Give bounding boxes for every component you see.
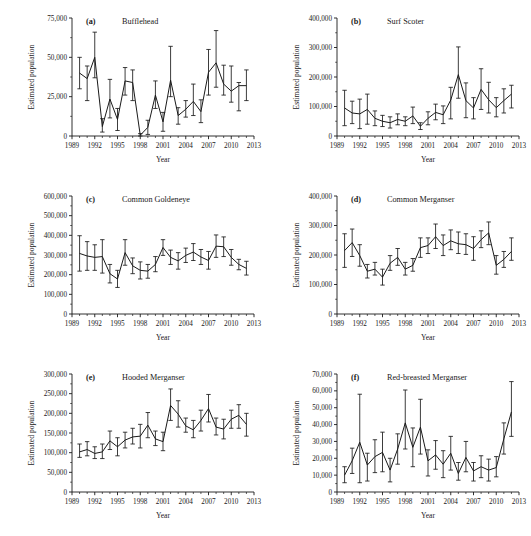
y-tick-label: 300,000 <box>309 44 333 52</box>
y-tick-label: 400,000 <box>44 232 68 240</box>
y-tick-label: 60,000 <box>312 387 332 395</box>
x-axis-title: Year <box>156 333 170 342</box>
y-tick-label: 0 <box>63 489 67 497</box>
y-axis-title: Estimated population <box>292 222 301 287</box>
y-tick-label: 600,000 <box>44 193 68 201</box>
chart-svg-c: 0100,000200,000300,000400,000500,000600,… <box>0 178 265 356</box>
chart-panel-b: 0100,000200,000300,000400,00019891992199… <box>265 0 531 178</box>
x-tick-label: 1995 <box>110 142 125 150</box>
x-tick-label: 2004 <box>444 498 459 506</box>
x-tick-label: 1998 <box>133 498 148 506</box>
y-tick-label: 50,000 <box>47 54 67 62</box>
x-tick-label: 1995 <box>375 498 390 506</box>
x-tick-label: 2007 <box>201 142 216 150</box>
x-tick-label: 2013 <box>247 320 262 328</box>
y-tick-label: 300,000 <box>44 371 68 379</box>
x-tick-label: 1995 <box>110 498 125 506</box>
panel-letter: (e) <box>86 373 95 382</box>
chart-panel-a: 025,00050,00075,000198919921995199820012… <box>0 0 265 178</box>
x-tick-label: 2001 <box>421 320 436 328</box>
x-tick-label: 2007 <box>466 142 481 150</box>
x-tick-label: 1998 <box>398 498 413 506</box>
x-tick-label: 2004 <box>179 320 194 328</box>
x-tick-label: 2007 <box>466 498 481 506</box>
x-tick-label: 2004 <box>444 320 459 328</box>
y-tick-label: 200,000 <box>44 271 68 279</box>
x-tick-label: 2007 <box>201 498 216 506</box>
chart-svg-e: 050,000100,000150,000200,000250,000300,0… <box>0 356 265 536</box>
error-bars <box>342 382 513 483</box>
x-tick-label: 2010 <box>224 320 239 328</box>
error-bars <box>342 47 513 130</box>
x-tick-label: 1992 <box>353 320 368 328</box>
y-tick-label: 500,000 <box>44 212 68 220</box>
x-tick-label: 2007 <box>201 320 216 328</box>
x-tick-label: 1995 <box>110 320 125 328</box>
x-tick-label: 1989 <box>330 142 345 150</box>
chart-svg-f: 010,00020,00030,00040,00050,00060,00070,… <box>265 356 530 536</box>
x-tick-label: 2001 <box>156 498 171 506</box>
x-axis-title: Year <box>156 155 170 164</box>
x-tick-label: 1995 <box>375 320 390 328</box>
y-tick-label: 300,000 <box>44 252 68 260</box>
y-tick-label: 75,000 <box>47 15 67 23</box>
y-axis-title: Estimated population <box>27 44 36 109</box>
x-tick-label: 1989 <box>330 498 345 506</box>
x-tick-label: 2004 <box>179 142 194 150</box>
panel-species-title: Surf Scoter <box>387 17 424 26</box>
panel-letter: (d) <box>351 195 361 204</box>
x-tick-label: 1992 <box>353 498 368 506</box>
x-tick-label: 2001 <box>156 142 171 150</box>
x-tick-label: 2010 <box>224 498 239 506</box>
y-tick-label: 100,000 <box>44 291 68 299</box>
y-tick-label: 150,000 <box>44 430 68 438</box>
y-tick-label: 30,000 <box>312 438 332 446</box>
y-tick-label: 0 <box>328 311 332 319</box>
chart-svg-a: 025,00050,00075,000198919921995199820012… <box>0 0 265 178</box>
y-axis-title: Estimated population <box>292 400 301 465</box>
chart-panel-d: 0100,000200,000300,000400,00019891992199… <box>265 178 531 356</box>
x-tick-label: 2004 <box>444 142 459 150</box>
x-tick-label: 2013 <box>512 142 527 150</box>
y-axis-title: Estimated population <box>27 400 36 465</box>
y-tick-label: 250,000 <box>44 390 68 398</box>
x-tick-label: 2013 <box>512 498 527 506</box>
chart-panel-f: 010,00020,00030,00040,00050,00060,00070,… <box>265 356 531 536</box>
x-tick-label: 2010 <box>489 142 504 150</box>
y-tick-label: 400,000 <box>309 15 333 23</box>
y-tick-label: 200,000 <box>309 74 333 82</box>
x-tick-label: 1989 <box>330 320 345 328</box>
panel-species-title: Bufflehead <box>122 17 158 26</box>
y-tick-label: 200,000 <box>44 410 68 418</box>
x-tick-label: 2013 <box>512 320 527 328</box>
x-tick-label: 1989 <box>65 498 80 506</box>
x-tick-label: 2001 <box>421 498 436 506</box>
y-tick-label: 400,000 <box>309 193 333 201</box>
y-tick-label: 70,000 <box>312 371 332 379</box>
x-tick-label: 2010 <box>489 498 504 506</box>
panel-letter: (b) <box>351 17 361 26</box>
panel-letter: (a) <box>86 17 96 26</box>
x-tick-label: 2004 <box>179 498 194 506</box>
x-axis-title: Year <box>421 333 435 342</box>
y-axis-title: Estimated population <box>292 44 301 109</box>
panel-species-title: Common Goldeneye <box>122 195 190 204</box>
y-tick-label: 20,000 <box>312 455 332 463</box>
x-tick-label: 1998 <box>133 142 148 150</box>
y-tick-label: 50,000 <box>47 469 67 477</box>
series-line-b <box>345 75 512 127</box>
x-tick-label: 1998 <box>398 320 413 328</box>
x-axis-title: Year <box>156 511 170 520</box>
y-tick-label: 25,000 <box>47 93 67 101</box>
x-tick-label: 1992 <box>353 142 368 150</box>
y-tick-label: 0 <box>63 311 67 319</box>
x-tick-label: 1992 <box>88 498 103 506</box>
x-tick-label: 2013 <box>247 142 262 150</box>
x-tick-label: 1989 <box>65 142 80 150</box>
x-tick-label: 1998 <box>398 142 413 150</box>
error-bars <box>77 235 248 288</box>
y-tick-label: 100,000 <box>309 103 333 111</box>
y-tick-label: 300,000 <box>309 222 333 230</box>
chart-svg-b: 0100,000200,000300,000400,00019891992199… <box>265 0 530 178</box>
chart-panel-e: 050,000100,000150,000200,000250,000300,0… <box>0 356 265 536</box>
